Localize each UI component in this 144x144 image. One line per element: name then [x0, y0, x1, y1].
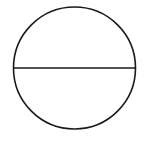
diagram-canvas [0, 0, 144, 144]
background [0, 0, 144, 144]
